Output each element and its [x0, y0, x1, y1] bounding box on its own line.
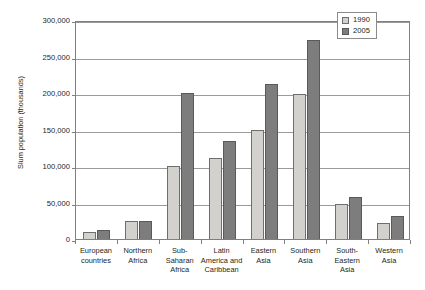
x-axis-tick-mark — [326, 240, 327, 244]
x-axis-tick-mark — [284, 240, 285, 244]
x-axis-category-label: NorthernAfrica — [117, 246, 159, 265]
bar-1990 — [209, 158, 222, 239]
y-axis-tick-labels: 050,000100,000150,000200,000250,000300,0… — [22, 0, 70, 290]
x-axis-category-label: EasternAsia — [243, 246, 285, 265]
x-axis-tick-mark — [75, 240, 76, 244]
bar-2005 — [223, 141, 236, 239]
y-axis-tick-label: 200,000 — [24, 90, 70, 98]
bar-2005 — [265, 84, 278, 239]
bar-group — [118, 22, 160, 239]
bar-1990 — [125, 221, 138, 239]
legend-item-2005: 2005 — [342, 27, 370, 35]
y-axis-tick-label: 250,000 — [24, 54, 70, 62]
bar-1990 — [251, 130, 264, 240]
bar-2005 — [391, 216, 404, 239]
bar-group — [369, 22, 411, 239]
bar-2005 — [349, 197, 362, 239]
bar-1990 — [377, 223, 390, 239]
bar-group — [160, 22, 202, 239]
y-axis-tick-label: 100,000 — [24, 163, 70, 171]
legend-swatch-1990-icon — [342, 17, 349, 24]
x-axis-category-labels: EuropeancountriesNorthernAfricaSub-Sahar… — [75, 246, 410, 290]
plot-area — [75, 21, 410, 240]
slum-population-bar-chart: Slum population (thousands) 050,000100,0… — [0, 0, 425, 290]
x-axis-category-label: Europeancountries — [75, 246, 117, 265]
x-axis-tick-mark — [159, 240, 160, 244]
bar-group — [244, 22, 286, 239]
bar-group — [202, 22, 244, 239]
y-axis-tick-label: 300,000 — [24, 17, 70, 25]
x-axis-tick-mark — [368, 240, 369, 244]
bars-layer — [76, 22, 409, 239]
bar-1990 — [293, 94, 306, 239]
legend-item-1990: 1990 — [342, 16, 370, 24]
y-axis-tick-label: 0 — [24, 236, 70, 244]
x-axis-category-label: South-EasternAsia — [326, 246, 368, 275]
bar-2005 — [181, 93, 194, 239]
bar-group — [76, 22, 118, 239]
x-axis-category-label: LatinAmerica andCaribbean — [201, 246, 243, 275]
x-axis-tick-mark — [117, 240, 118, 244]
bar-group — [285, 22, 327, 239]
y-axis-tick-label: 150,000 — [24, 127, 70, 135]
y-axis-tick-label: 50,000 — [24, 200, 70, 208]
bar-2005 — [97, 230, 110, 239]
bar-1990 — [167, 166, 180, 239]
x-axis-tick-mark — [201, 240, 202, 244]
x-axis-category-label: WesternAsia — [368, 246, 410, 265]
bar-2005 — [307, 40, 320, 239]
bar-2005 — [139, 221, 152, 239]
bar-group — [327, 22, 369, 239]
chart-legend: 1990 2005 — [337, 12, 377, 39]
legend-label-1990: 1990 — [353, 16, 370, 24]
legend-label-2005: 2005 — [353, 27, 370, 35]
x-axis-category-label: SouthernAsia — [284, 246, 326, 265]
legend-swatch-2005-icon — [342, 28, 349, 35]
x-axis-category-label: Sub-SaharanAfrica — [159, 246, 201, 275]
bar-1990 — [83, 232, 96, 239]
bar-1990 — [335, 204, 348, 239]
x-axis-tick-mark — [410, 240, 411, 244]
x-axis-tick-mark — [243, 240, 244, 244]
